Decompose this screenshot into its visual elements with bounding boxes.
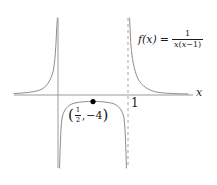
function-equation: f(x) = 1 x(x−1) [138, 30, 203, 49]
annotation-close-paren: ) [103, 108, 109, 123]
equation-fraction: 1 x(x−1) [172, 30, 203, 49]
max-point-marker [90, 99, 95, 104]
annotation-fraction-one-half: 1 2 [75, 107, 81, 124]
function-graph-figure: x 1 f(x) = 1 x(x−1) ( 1 2 , −4 ) [0, 0, 217, 185]
annotation-open-paren: ( [68, 108, 74, 123]
annotation-y-value: −4 [86, 110, 102, 121]
annotation-frac-denominator: 2 [76, 116, 80, 124]
annotation-comma: , [82, 110, 86, 121]
graph-canvas [0, 0, 217, 185]
equation-numerator: 1 [183, 30, 192, 39]
x-axis-label: x [196, 87, 202, 98]
denominator-minus-one: −1 [186, 40, 198, 49]
equation-equals-sign: = [160, 34, 169, 45]
equation-denominator: x(x−1) [172, 40, 203, 49]
annotation-frac-numerator: 1 [76, 107, 80, 115]
equation-function-name: f(x) [138, 34, 157, 45]
point-coordinate-label: ( 1 2 , −4 ) [68, 107, 108, 124]
denominator-close-paren: ) [198, 40, 201, 49]
tick-label-one: 1 [131, 97, 139, 109]
curve-left-branch [14, 18, 57, 94]
